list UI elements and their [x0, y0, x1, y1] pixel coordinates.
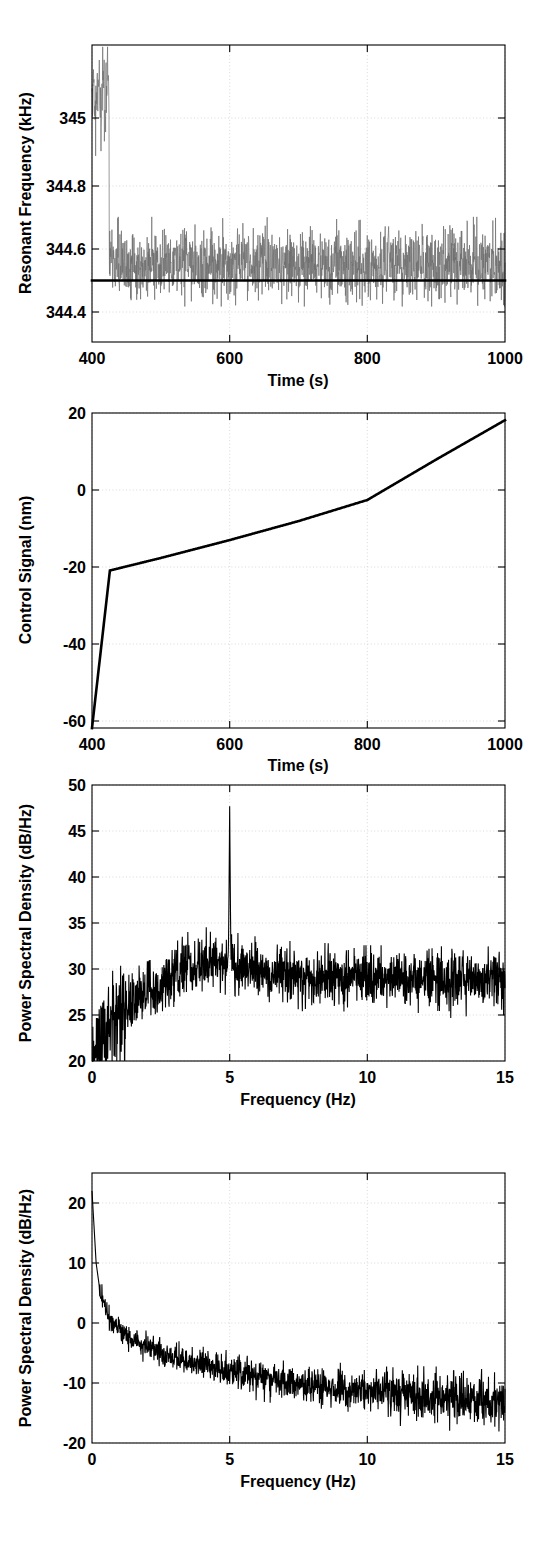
panel-2-ytick-3: 0	[77, 482, 86, 499]
panel-4-xtick-1: 5	[225, 1451, 234, 1468]
panel-resonant-frequency: 345 344.8 344.6 344.4 400 600 800 1000 T…	[0, 0, 558, 390]
panel-1-xtick-3: 1000	[487, 350, 523, 367]
panel-4-xaxis-label: Frequency (Hz)	[240, 1473, 356, 1490]
multi-panel-figure: 345 344.8 344.6 344.4 400 600 800 1000 T…	[0, 0, 558, 1566]
panel-1-xaxis-label: Time (s)	[267, 372, 328, 389]
panel-3-ytick-2: 30	[68, 961, 86, 978]
panel-3-ytick-4: 40	[68, 869, 86, 886]
panel-2-trace	[92, 420, 505, 728]
panel-3-y-ticklabels: 50 45 40 35 30 25 20	[68, 777, 86, 1070]
panel-control-signal: 20 0 -20 -40 -60 400 600 800 1000 Time (…	[0, 390, 558, 775]
panel-2-xtick-2: 800	[354, 736, 381, 753]
panel-1-ytick-2: 344.8	[46, 178, 86, 195]
panel-1-y-ticklabels: 345 344.8 344.6 344.4	[46, 110, 86, 321]
panel-2-ticks	[92, 413, 505, 728]
panel-3-svg: 50 45 40 35 30 25 20 0 5 10 15 Frequency…	[0, 775, 558, 1165]
panel-3-xtick-1: 5	[225, 1069, 234, 1086]
panel-1-trace-noise	[92, 47, 505, 307]
panel-psd-open-loop: 20 10 0 -10 -20 0 5 10 15 Frequency (Hz)…	[0, 1165, 558, 1565]
panel-1-ytick-0: 344.4	[46, 304, 86, 321]
panel-2-yaxis-label: Control Signal (nm)	[17, 496, 34, 644]
panel-3-xtick-2: 10	[358, 1069, 376, 1086]
panel-4-xtick-3: 15	[496, 1451, 514, 1468]
panel-1-xtick-2: 800	[354, 350, 381, 367]
panel-3-ytick-3: 35	[68, 915, 86, 932]
panel-4-x-ticklabels: 0 5 10 15	[88, 1451, 514, 1468]
panel-psd-closed-loop: 50 45 40 35 30 25 20 0 5 10 15 Frequency…	[0, 775, 558, 1165]
panel-3-xtick-0: 0	[88, 1069, 97, 1086]
panel-3-yaxis-label: Power Spectral Density (dB/Hz)	[17, 804, 34, 1042]
panel-3-trace	[92, 806, 505, 1061]
panel-4-ytick-3: 10	[68, 1255, 86, 1272]
panel-3-xtick-3: 15	[496, 1069, 514, 1086]
panel-1-ytick-3: 345	[59, 110, 86, 127]
panel-2-x-ticklabels: 400 600 800 1000	[79, 736, 523, 753]
panel-2-svg: 20 0 -20 -40 -60 400 600 800 1000 Time (…	[0, 390, 558, 775]
panel-2-axes-box	[92, 413, 505, 728]
panel-2-xtick-1: 600	[216, 736, 243, 753]
panel-2-y-ticklabels: 20 0 -20 -40 -60	[63, 405, 86, 730]
panel-3-x-ticklabels: 0 5 10 15	[88, 1069, 514, 1086]
panel-3-xaxis-label: Frequency (Hz)	[240, 1091, 356, 1108]
panel-4-ytick-2: 0	[77, 1315, 86, 1332]
panel-2-xaxis-label: Time (s)	[267, 757, 328, 774]
panel-4-y-ticklabels: 20 10 0 -10 -20	[63, 1195, 86, 1452]
panel-2-grid	[92, 413, 505, 728]
panel-4-yaxis-label: Power Spectral Density (dB/Hz)	[17, 1189, 34, 1427]
panel-3-ytick-6: 50	[68, 777, 86, 794]
panel-3-ytick-0: 20	[68, 1053, 86, 1070]
panel-2-xtick-3: 1000	[487, 736, 523, 753]
panel-4-svg: 20 10 0 -10 -20 0 5 10 15 Frequency (Hz)…	[0, 1165, 558, 1565]
panel-4-ytick-4: 20	[68, 1195, 86, 1212]
panel-1-x-ticklabels: 400 600 800 1000	[79, 350, 523, 367]
panel-3-grid	[92, 785, 505, 1061]
panel-4-trace	[92, 1191, 505, 1431]
panel-3-ytick-1: 25	[68, 1007, 86, 1024]
panel-1-yaxis-label: Resonant Frequency (kHz)	[17, 92, 34, 294]
panel-1-ytick-1: 344.6	[46, 241, 86, 258]
panel-1-xtick-0: 400	[79, 350, 106, 367]
panel-2-ytick-4: 20	[68, 405, 86, 422]
panel-2-xtick-0: 400	[79, 736, 106, 753]
panel-4-ytick-0: -20	[63, 1435, 86, 1452]
panel-1-xtick-1: 600	[216, 350, 243, 367]
panel-3-ytick-5: 45	[68, 823, 86, 840]
panel-4-xtick-0: 0	[88, 1451, 97, 1468]
panel-4-ytick-1: -10	[63, 1375, 86, 1392]
panel-2-ytick-1: -40	[63, 636, 86, 653]
panel-4-xtick-2: 10	[358, 1451, 376, 1468]
panel-2-ytick-2: -20	[63, 559, 86, 576]
panel-2-ytick-0: -60	[63, 713, 86, 730]
panel-1-svg: 345 344.8 344.6 344.4 400 600 800 1000 T…	[0, 0, 558, 390]
